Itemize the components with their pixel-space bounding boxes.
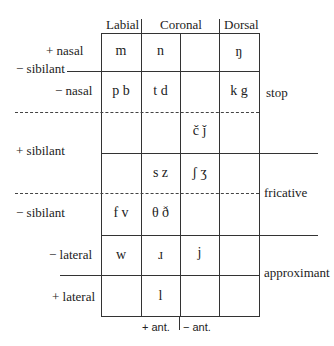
cell-eng: ŋ [219,45,259,59]
cell-c-caron-j-caron: č ǰ [180,124,219,138]
cell-f-v: f v [101,206,141,220]
header-divider-coronal-dorsal [219,19,220,33]
cell-theta-eth: θ ð [141,206,180,220]
header-dorsal: Dorsal [224,18,259,32]
cell-l: l [141,289,180,303]
line-fricative-approximant [101,235,318,236]
header-coronal: Coronal [160,18,202,32]
dashed-line-sibilant [15,193,259,194]
footer-divider-ant [179,316,180,330]
cell-j: j [180,246,219,260]
grid-divider-dorsal [219,33,220,316]
dashed-line-stop-sibilant [15,112,259,113]
grid-bottom-border [101,316,260,317]
cell-p-b: p b [101,84,141,98]
label-stop: stop [266,86,288,100]
grid-top-border [101,33,260,34]
header-labial: Labial [106,18,139,32]
label-minus-lateral: − lateral [49,248,92,262]
footer-plus-ant: + ant. [142,320,170,334]
grid-left-border [101,33,102,316]
label-minus-sibilant-bottom: − sibilant [16,206,65,220]
label-fricative: fricative [264,186,307,200]
label-minus-sibilant-top: − sibilant [16,62,65,76]
label-plus-nasal: + nasal [46,44,83,58]
line-sibilant-nasal [67,71,260,72]
cell-esh-ezh: ʃ ʒ [180,166,219,180]
label-minus-nasal: − nasal [55,84,92,98]
label-plus-lateral: + lateral [52,290,95,304]
label-plus-sibilant: + sibilant [16,144,65,158]
cell-m: m [101,44,141,58]
line-stop-fricative [101,153,318,154]
cell-w: w [101,248,141,262]
label-approximant: approximant [264,266,330,280]
cell-k-g: k g [219,84,259,98]
cell-turned-r: ɹ [141,248,180,262]
cell-s-z: s z [141,166,180,180]
grid-right-border [259,33,260,316]
cell-n: n [141,44,180,58]
header-divider-labial-coronal [141,19,142,33]
line-lateral [60,275,260,276]
cell-t-d: t d [141,84,180,98]
footer-minus-ant: − ant. [183,320,211,334]
